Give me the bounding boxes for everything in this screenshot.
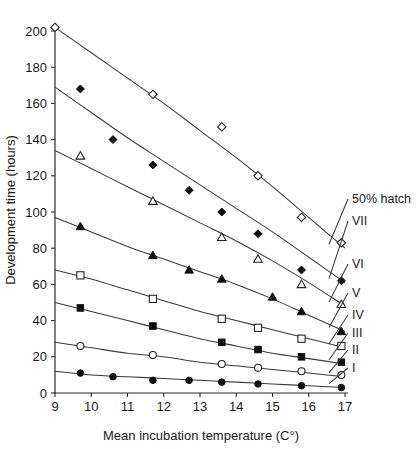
- marker-i: [110, 373, 117, 380]
- y-axis-title: Development time (hours): [3, 135, 18, 285]
- marker-ii: [218, 361, 225, 368]
- marker-ii: [255, 364, 262, 371]
- y-tick-label: 20: [33, 349, 47, 364]
- series-label-vi: VI: [352, 257, 364, 271]
- x-tick-label: 15: [265, 399, 279, 414]
- y-tick-label: 200: [25, 24, 47, 39]
- y-tick-label: 80: [33, 241, 47, 256]
- y-tick-label: 60: [33, 277, 47, 292]
- y-tick-label: 140: [25, 132, 47, 147]
- marker-iv: [298, 335, 305, 342]
- marker-iii: [298, 354, 305, 361]
- marker-i: [150, 377, 157, 384]
- marker-iv: [77, 272, 84, 279]
- series-label-ii: II: [352, 343, 359, 357]
- marker-iv: [149, 295, 156, 302]
- marker-ii: [298, 368, 305, 375]
- y-tick-label: 40: [33, 313, 47, 328]
- marker-i: [186, 377, 193, 384]
- series-label-iii: III: [352, 326, 362, 340]
- marker-i: [255, 381, 262, 388]
- x-tick-label: 16: [302, 399, 316, 414]
- series-label-iv: IV: [352, 308, 364, 322]
- series-label-v: V: [352, 286, 361, 300]
- marker-iii: [218, 339, 225, 346]
- y-tick-label: 100: [25, 205, 47, 220]
- x-tick-label: 10: [84, 399, 98, 414]
- y-tick-label: 180: [25, 60, 47, 75]
- series-label-i: I: [352, 361, 355, 375]
- marker-i: [298, 382, 305, 389]
- x-tick-label: 12: [157, 399, 171, 414]
- marker-iii: [150, 323, 157, 330]
- x-tick-label: 14: [229, 399, 243, 414]
- chart-figure: 91011121314151617 0204060801001201401601…: [0, 0, 419, 449]
- x-axis-title: Mean incubation temperature (C°): [103, 428, 299, 443]
- marker-i: [77, 370, 84, 377]
- marker-ii: [149, 351, 156, 358]
- marker-iv: [218, 315, 225, 322]
- marker-ii: [77, 342, 84, 349]
- y-tick-label: 160: [25, 96, 47, 111]
- marker-iv: [254, 324, 261, 331]
- x-tick-label: 9: [51, 399, 58, 414]
- marker-i: [218, 379, 225, 386]
- y-tick-label: 120: [25, 168, 47, 183]
- x-tick-label: 13: [193, 399, 207, 414]
- y-tick-label: 0: [40, 386, 47, 401]
- x-tick-label: 17: [338, 399, 352, 414]
- marker-i: [338, 384, 345, 391]
- marker-iii: [255, 346, 262, 353]
- marker-iii: [77, 305, 84, 312]
- x-tick-label: 11: [121, 399, 135, 414]
- series-label-vii: VII: [352, 214, 367, 228]
- series-label-50-hatch: 50% hatch: [352, 192, 411, 206]
- scatter-plot-canvas: 91011121314151617 0204060801001201401601…: [0, 0, 419, 449]
